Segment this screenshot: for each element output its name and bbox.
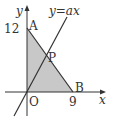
x-axis-label: x (99, 93, 106, 107)
y-axis-arrow-icon (25, 5, 30, 11)
origin-label: O (29, 95, 39, 109)
coordinate-diagram: y y=ax 12 A P B O 9 x (0, 0, 114, 131)
point-label-A: A (28, 19, 38, 33)
point-label-P: P (48, 51, 56, 65)
point-label-B: B (75, 81, 84, 95)
y-axis-label: y (15, 4, 23, 18)
line-y-ax (14, 17, 67, 116)
tick-label-y-12: 12 (4, 22, 19, 36)
line-label: y=ax (48, 4, 80, 18)
tick-label-x-9: 9 (69, 95, 77, 109)
